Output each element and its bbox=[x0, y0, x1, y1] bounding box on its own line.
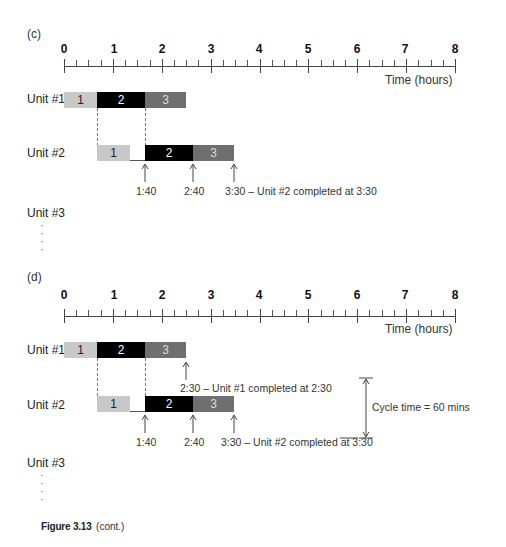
time-annotation: 1:40 bbox=[136, 185, 156, 197]
time-annotation: 1:40 bbox=[136, 436, 156, 448]
tick-label: 4 bbox=[256, 42, 263, 56]
major-tick bbox=[162, 309, 163, 323]
minor-tick bbox=[394, 310, 395, 316]
minor-tick bbox=[369, 60, 370, 66]
minor-tick bbox=[418, 60, 419, 66]
unit-label: Unit #1 bbox=[27, 343, 65, 357]
caption-label: Figure 3.13 bbox=[41, 521, 92, 532]
minor-tick bbox=[443, 60, 444, 66]
step-1-bar: 1 bbox=[97, 145, 130, 161]
minor-tick bbox=[88, 60, 89, 66]
minor-tick bbox=[137, 310, 138, 316]
dashed-guide bbox=[97, 108, 98, 146]
dashed-guide bbox=[145, 108, 146, 146]
major-tick bbox=[308, 309, 309, 323]
minor-tick bbox=[88, 310, 89, 316]
major-tick bbox=[406, 309, 407, 323]
dashed-guide bbox=[97, 358, 98, 396]
minor-tick bbox=[431, 310, 432, 316]
unit-label: Unit #3 bbox=[27, 456, 65, 470]
minor-tick bbox=[284, 310, 285, 316]
minor-tick bbox=[198, 60, 199, 66]
major-tick bbox=[113, 59, 114, 73]
minor-tick bbox=[101, 60, 102, 66]
time-annotation: 2:40 bbox=[184, 436, 204, 448]
minor-tick bbox=[235, 310, 236, 316]
up-arrow-icon bbox=[188, 163, 198, 183]
minor-tick bbox=[223, 310, 224, 316]
step-3-bar: 3 bbox=[145, 92, 186, 108]
unit-label: Unit #2 bbox=[27, 398, 65, 412]
step-2-bar: 2 bbox=[97, 92, 145, 108]
tick-label: 0 bbox=[61, 42, 68, 56]
tick-label: 0 bbox=[61, 288, 68, 302]
minor-tick bbox=[418, 310, 419, 316]
minor-tick bbox=[272, 60, 273, 66]
wait-line bbox=[130, 160, 145, 161]
minor-tick bbox=[150, 310, 151, 316]
major-tick bbox=[406, 59, 407, 73]
minor-tick bbox=[345, 310, 346, 316]
major-tick bbox=[260, 59, 261, 73]
major-tick bbox=[357, 309, 358, 323]
completion-annotation: 2:30 – Unit #1 completed at 2:30 bbox=[180, 382, 332, 394]
step-3-bar: 3 bbox=[193, 145, 234, 161]
axis-title: Time (hours) bbox=[385, 322, 453, 336]
panel-label: (c) bbox=[27, 27, 41, 41]
figure-caption: Figure 3.13 (cont.) bbox=[41, 516, 124, 534]
tick-label: 2 bbox=[159, 42, 166, 56]
continuation-dots: ···· bbox=[39, 222, 45, 254]
major-tick bbox=[113, 309, 114, 323]
up-arrow-icon bbox=[140, 414, 150, 434]
unit-label: Unit #3 bbox=[27, 206, 65, 220]
minor-tick bbox=[345, 60, 346, 66]
minor-tick bbox=[333, 310, 334, 316]
tick-label: 7 bbox=[402, 288, 409, 302]
major-tick bbox=[64, 59, 65, 73]
minor-tick bbox=[296, 310, 297, 316]
minor-tick bbox=[150, 60, 151, 66]
major-tick bbox=[455, 309, 456, 323]
tick-label: 8 bbox=[452, 288, 459, 302]
minor-tick bbox=[382, 60, 383, 66]
minor-tick bbox=[443, 310, 444, 316]
minor-tick bbox=[321, 310, 322, 316]
minor-tick bbox=[272, 310, 273, 316]
tick-label: 6 bbox=[354, 42, 361, 56]
major-tick bbox=[260, 309, 261, 323]
up-arrow-icon bbox=[229, 414, 239, 434]
tick-label: 1 bbox=[111, 288, 118, 302]
step-1-bar: 1 bbox=[64, 342, 97, 358]
up-arrow-icon bbox=[181, 361, 191, 381]
tick-label: 6 bbox=[354, 288, 361, 302]
tick-label: 3 bbox=[208, 288, 215, 302]
minor-tick bbox=[137, 60, 138, 66]
tick-label: 5 bbox=[305, 42, 312, 56]
tick-label: 8 bbox=[452, 42, 459, 56]
minor-tick bbox=[186, 60, 187, 66]
step-2-bar: 2 bbox=[145, 396, 193, 412]
minor-tick bbox=[247, 60, 248, 66]
tick-label: 1 bbox=[111, 42, 118, 56]
panel-label: (d) bbox=[27, 270, 42, 284]
minor-tick bbox=[76, 310, 77, 316]
minor-tick bbox=[174, 310, 175, 316]
minor-tick bbox=[186, 310, 187, 316]
step-1-bar: 1 bbox=[64, 92, 97, 108]
minor-tick bbox=[431, 60, 432, 66]
major-tick bbox=[211, 309, 212, 323]
step-3-bar: 3 bbox=[145, 342, 186, 358]
wait-line bbox=[130, 411, 145, 412]
caption-suffix: (cont.) bbox=[96, 521, 124, 532]
major-tick bbox=[308, 59, 309, 73]
up-arrow-icon bbox=[188, 414, 198, 434]
minor-tick bbox=[235, 60, 236, 66]
unit-label: Unit #2 bbox=[27, 146, 65, 160]
minor-tick bbox=[382, 310, 383, 316]
tick-label: 2 bbox=[159, 288, 166, 302]
cycle-time-label: Cycle time = 60 mins bbox=[372, 401, 470, 413]
minor-tick bbox=[394, 60, 395, 66]
minor-tick bbox=[125, 310, 126, 316]
up-arrow-icon bbox=[229, 163, 239, 183]
minor-tick bbox=[333, 60, 334, 66]
